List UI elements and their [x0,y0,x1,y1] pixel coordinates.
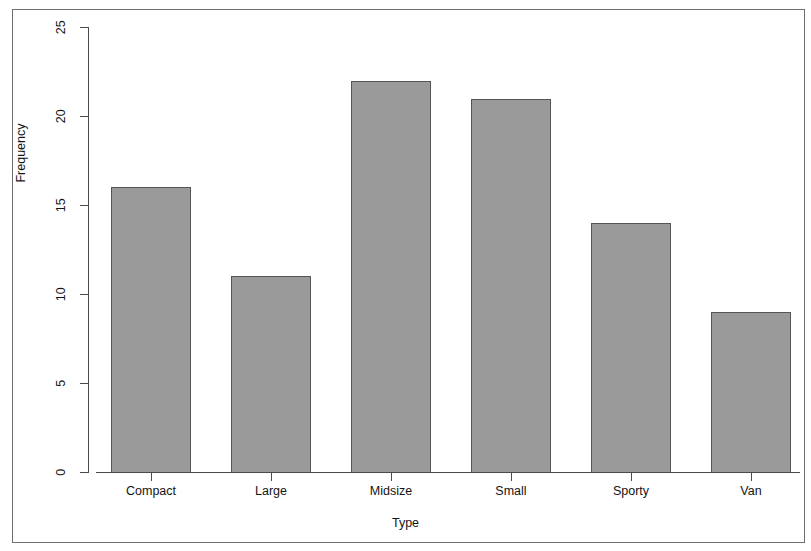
x-axis-tick-midsize [391,473,392,481]
y-axis-tick-0 [80,472,88,473]
bar-midsize [351,81,431,473]
bar-large [231,276,311,473]
y-axis-label-10: 10 [48,286,74,302]
x-axis-tick-small [511,473,512,481]
x-axis-label-sporty: Sporty [571,484,691,498]
y-axis-label-15: 15 [48,197,74,213]
y-axis-tick-10 [80,294,88,295]
bar-sporty [591,223,671,473]
x-axis-tick-compact [151,473,152,481]
y-axis-title: Frequency [14,98,30,208]
chart-page: 0 5 10 15 20 25 Compact Larg [0,0,811,551]
bar-compact [111,187,191,473]
y-axis-tick-25 [80,27,88,28]
y-axis-label-20: 20 [48,108,74,124]
x-axis-label-compact: Compact [91,484,211,498]
bar-van [711,312,791,473]
x-axis-label-large: Large [211,484,331,498]
y-axis-label-0: 0 [48,464,74,480]
x-axis-line [96,472,800,473]
y-axis-line [88,27,89,473]
x-axis-title: Type [0,516,811,530]
y-axis-label-5: 5 [48,375,74,391]
x-axis-label-midsize: Midsize [331,484,451,498]
x-axis-tick-sporty [631,473,632,481]
y-axis-tick-15 [80,205,88,206]
x-axis-label-van: Van [691,484,811,498]
y-axis-tick-20 [80,116,88,117]
bar-small [471,99,551,473]
x-axis-tick-van [751,473,752,481]
y-axis-tick-5 [80,383,88,384]
x-axis-label-small: Small [451,484,571,498]
y-axis-label-25: 25 [48,19,74,35]
plot-area: 0 5 10 15 20 25 Compact Larg [0,0,811,551]
x-axis-tick-large [271,473,272,481]
